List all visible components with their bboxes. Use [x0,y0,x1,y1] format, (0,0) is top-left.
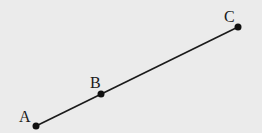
point-a-label: A [19,108,31,125]
point-b-dot [98,91,105,98]
point-c-dot [235,24,242,31]
point-c-label: C [224,8,235,25]
segment-ac [36,27,238,126]
diagram-canvas: A B C [0,0,262,133]
point-a-dot [33,123,40,130]
point-b-label: B [90,74,101,91]
